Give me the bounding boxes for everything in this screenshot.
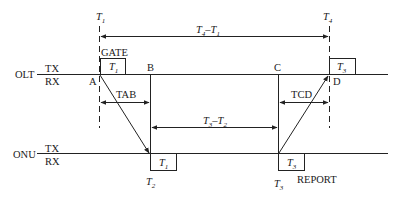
interval-t4-t1: T4–T1 xyxy=(101,24,328,38)
timing-diagram: OLT TX RX ONU TX RX T1 T4 T4–T1 GATE T1 … xyxy=(0,0,398,205)
report-upstream-arrow xyxy=(279,76,328,153)
olt-report-box: T3 xyxy=(330,59,356,76)
interval-t3-t2: T3–T2 xyxy=(152,115,277,129)
interval-t4-t1-label: T4–T1 xyxy=(196,24,220,38)
t1-label: T1 xyxy=(96,11,105,25)
onu-report-box: T3 REPORT T3 xyxy=(274,154,337,193)
point-c-label: C xyxy=(274,62,281,73)
interval-tcd: TCD xyxy=(280,89,328,103)
point-b-label: B xyxy=(147,62,154,73)
olt-label: OLT xyxy=(15,69,35,80)
interval-tab-label: TAB xyxy=(116,89,136,100)
interval-tab: TAB xyxy=(101,89,149,103)
interval-tcd-label: TCD xyxy=(291,89,312,100)
t3-label: T3 xyxy=(274,178,284,192)
gate-label: GATE xyxy=(101,47,128,58)
onu-gate-box: T1 T2 xyxy=(146,154,177,191)
onu-gate-box-label: T1 xyxy=(159,157,168,171)
onu-label: ONU xyxy=(13,149,36,160)
interval-t3-t2-label: T3–T2 xyxy=(203,115,227,129)
olt-rx-label: RX xyxy=(45,76,60,87)
olt-gate-box: GATE T1 xyxy=(101,47,128,75)
report-label: REPORT xyxy=(297,174,337,185)
t4-label: T4 xyxy=(323,11,333,25)
onu-report-box-label: T3 xyxy=(287,157,297,171)
t2-label: T2 xyxy=(146,176,156,190)
gate-downstream-arrow xyxy=(100,75,149,153)
onu-rx-label: RX xyxy=(45,156,60,167)
olt-report-box-label: T3 xyxy=(337,61,347,75)
olt-tx-label: TX xyxy=(45,63,59,74)
t4-marker: T4 xyxy=(323,11,333,128)
onu-tx-label: TX xyxy=(45,143,59,154)
point-d-label: D xyxy=(333,76,341,87)
onu-row: ONU TX RX xyxy=(13,143,388,167)
point-a-label: A xyxy=(89,76,97,87)
olt-gate-box-label: T1 xyxy=(109,61,118,75)
